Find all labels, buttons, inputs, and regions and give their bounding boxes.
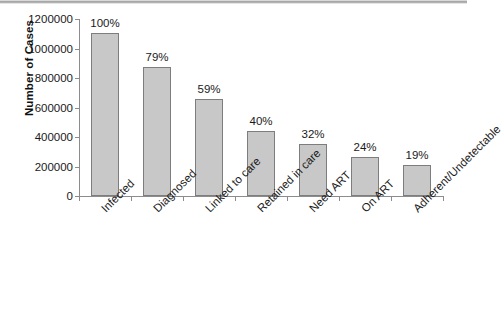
x-axis-tick-mark — [443, 196, 444, 201]
bar — [91, 33, 119, 196]
y-axis-tick-label: 800000 — [35, 72, 73, 84]
y-axis-tick-mark — [75, 108, 79, 109]
x-axis-tick-mark — [339, 196, 340, 201]
bar-value-label: 19% — [405, 149, 428, 161]
bar — [143, 67, 171, 196]
bar-value-label: 40% — [249, 115, 272, 127]
y-axis-tick-mark — [75, 19, 79, 20]
y-axis-tick-mark — [75, 137, 79, 138]
x-axis-tick-mark — [391, 196, 392, 201]
x-axis-tick-mark — [183, 196, 184, 201]
x-axis-tick-mark — [235, 196, 236, 201]
y-axis-tick-mark — [75, 78, 79, 79]
y-axis-tick-label: 400000 — [35, 131, 73, 143]
x-axis-tick-mark — [79, 196, 80, 201]
x-axis-tick-mark — [287, 196, 288, 201]
bar-value-label: 32% — [301, 128, 324, 140]
bar-value-label: 59% — [197, 83, 220, 95]
x-axis-line — [79, 196, 443, 197]
x-axis-tick-mark — [131, 196, 132, 201]
plot-area: 020000040000060000080000010000001200000 … — [79, 19, 443, 196]
y-axis-tick-label: 600000 — [35, 102, 73, 114]
y-axis-tick-label: 1200000 — [28, 13, 73, 25]
y-axis-tick-mark — [75, 49, 79, 50]
bar — [195, 99, 223, 196]
y-axis-tick-label: 200000 — [35, 161, 73, 173]
bar-value-label: 79% — [145, 51, 168, 63]
y-axis-tick-mark — [75, 167, 79, 168]
bar-value-label: 24% — [353, 141, 376, 153]
bar-value-label: 100% — [90, 17, 119, 29]
y-axis-tick-label: 1000000 — [28, 43, 73, 55]
y-axis-tick-label: 0 — [67, 190, 73, 202]
